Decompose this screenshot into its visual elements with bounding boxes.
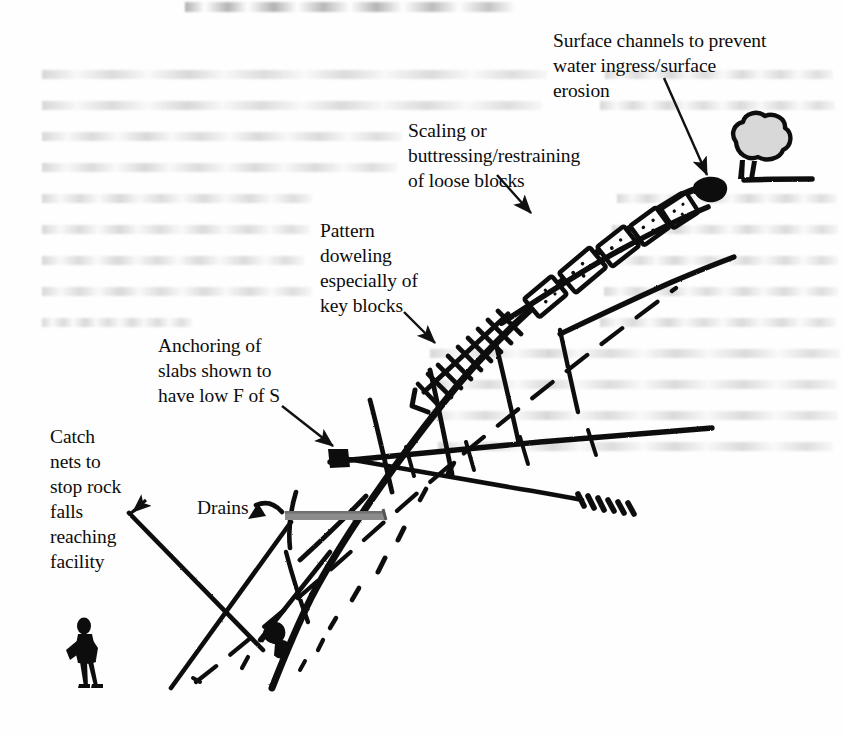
- label-catch-nets: Catch nets to stop rock falls reaching f…: [50, 424, 160, 574]
- label-surface-channels: Surface channels to prevent water ingres…: [553, 28, 843, 103]
- label-drains: Drains: [197, 495, 287, 520]
- label-pattern-doweling: Pattern doweling especially of key block…: [320, 218, 460, 318]
- tree: [733, 113, 790, 179]
- drain-bar: [285, 509, 386, 520]
- leader-anchoring: [282, 406, 333, 446]
- figure-canvas: Surface channels to prevent water ingres…: [0, 0, 844, 737]
- rock-bolt-anchor: [342, 458, 634, 514]
- label-scaling-buttressing: Scaling or buttressing/restraining of lo…: [408, 118, 638, 193]
- pattern-doweling: [412, 311, 521, 412]
- rock-slope-sketch: [0, 0, 844, 737]
- surface-channel: [693, 177, 727, 203]
- person-silhouette: [66, 618, 103, 689]
- label-anchoring-slabs: Anchoring of slabs shown to have low F o…: [158, 333, 338, 408]
